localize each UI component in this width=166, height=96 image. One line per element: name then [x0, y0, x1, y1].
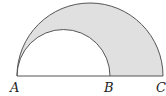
label-c: C [156, 80, 166, 95]
label-b: B [103, 80, 114, 95]
shaded-region [17, 3, 163, 76]
label-a: A [9, 80, 19, 95]
semicircle-diagram: A B C [0, 0, 166, 96]
